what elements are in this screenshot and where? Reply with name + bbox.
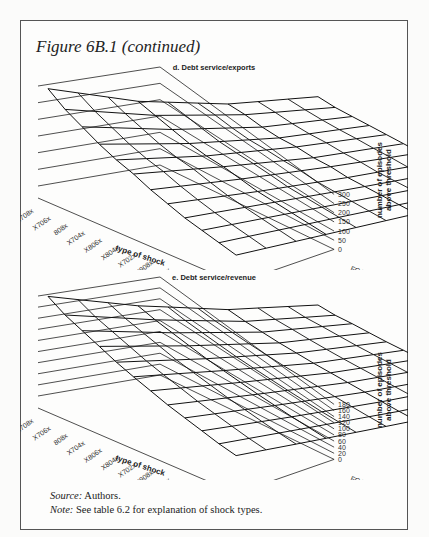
mesh-line-interp (108, 303, 296, 444)
surface-plot: d. Debt service/exports05010015020025030… (20, 60, 408, 270)
source-line: Source: Authors. (50, 489, 262, 503)
chart-title: e. Debt service/revenue (172, 273, 256, 282)
shock-tick-label: X806x (83, 446, 104, 463)
mesh-line-threshold (138, 306, 326, 439)
z-tick-label: 0 (338, 246, 342, 253)
mesh-line-shock (48, 296, 318, 309)
shock-tick-label: 808x (52, 222, 69, 237)
note-label: Note: (50, 504, 73, 515)
z-gridline (38, 299, 334, 417)
z-axis-label: number of episodes (375, 141, 384, 218)
z-axis-label-2: above threshold (384, 359, 393, 421)
z-gridline (38, 67, 334, 194)
shock-tick-label: X706x (31, 424, 52, 441)
note-text: See table 6.2 for explanation of shock t… (73, 504, 262, 515)
threshold-tick-label: FC40 (350, 475, 369, 480)
shock-tick-label: X708x (20, 417, 35, 434)
shock-tick-label: X704x (66, 229, 87, 246)
z-gridline (38, 100, 334, 213)
z-tick-label: 50 (338, 237, 346, 244)
shock-tick-label: X708x (20, 207, 35, 224)
note-line: Note: See table 6.2 for explanation of s… (50, 503, 262, 517)
mesh-line-shock (48, 89, 318, 104)
surface-mesh (48, 89, 408, 255)
mesh-line-threshold (48, 89, 236, 255)
mesh-line-shock (134, 144, 404, 174)
mesh-line-interp (198, 103, 386, 221)
z-tick-label: 0 (338, 456, 342, 463)
shock-tick-label: X706x (31, 214, 52, 231)
z-tick-label: 100 (338, 425, 350, 432)
source-label: Source: (50, 490, 82, 501)
z-tick-label: 140 (338, 413, 350, 420)
chart-debt-service-exports: d. Debt service/exports05010015020025030… (20, 60, 408, 270)
surface-plot: e. Debt service/revenue02040608010012014… (20, 270, 408, 480)
z-gridline (38, 321, 334, 429)
z-tick-label: 60 (338, 438, 346, 445)
shock-tick-label: X806x (83, 236, 104, 253)
surface-mesh (48, 296, 408, 455)
z-tick-label: 40 (338, 444, 346, 451)
mesh-line-shock (116, 135, 386, 160)
chart-debt-service-revenue: e. Debt service/revenue02040608010012014… (20, 270, 408, 480)
figure-title: Figure 6B.1 (continued) (36, 37, 200, 57)
shock-tick-label: 808x (52, 432, 69, 447)
source-text: Authors. (82, 490, 121, 501)
z-gridline (38, 277, 334, 404)
z-tick-label: 150 (338, 218, 350, 225)
z-axis-label-2: above threshold (384, 149, 393, 211)
figure-notes: Source: Authors. Note: See table 6.2 for… (50, 489, 262, 517)
chart-title: d. Debt service/exports (173, 63, 256, 72)
mesh-line-shock (151, 359, 408, 391)
z-tick-label: 20 (338, 450, 346, 457)
mesh-line-interp (78, 300, 266, 450)
shock-tick-label: X704x (66, 439, 87, 456)
z-axis-label: number of episodes (375, 351, 384, 428)
mesh-line-interp (198, 308, 386, 426)
